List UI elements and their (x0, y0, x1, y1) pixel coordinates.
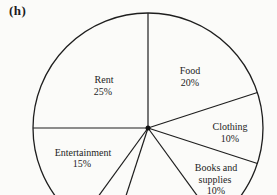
rent-label: Rent (95, 74, 114, 85)
pie-center-dot (146, 126, 151, 131)
rent-pct: 25% (94, 86, 112, 97)
entertainment-label: Entertainment (55, 147, 112, 158)
pie-chart-canvas: Rent 25% Food 20% Clothing 10% Books and… (0, 0, 277, 195)
books-label-line2: supplies (199, 174, 232, 185)
boundary-clothing-books (148, 128, 257, 164)
pie-chart-figure: (h) Rent 25% Food 20% Clothing 10% Books… (0, 0, 277, 195)
books-label-line1: Books and (195, 162, 238, 173)
entertainment-pct: 15% (73, 158, 91, 169)
food-pct: 20% (181, 77, 199, 88)
boundary-hidden-slices (113, 128, 149, 195)
clothing-label: Clothing (212, 121, 247, 132)
food-label: Food (180, 65, 201, 76)
clothing-pct: 10% (221, 133, 239, 144)
books-pct: 10% (207, 185, 225, 195)
